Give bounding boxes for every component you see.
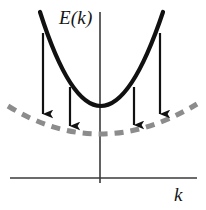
axes-group xyxy=(10,12,197,183)
band-diagram-figure: E(k) k xyxy=(0,0,206,210)
momentum-axis-label: k xyxy=(174,184,182,206)
lower-band-dashed-curve xyxy=(8,104,197,134)
energy-axis-label: E(k) xyxy=(59,7,93,29)
band-diagram-canvas xyxy=(0,0,206,210)
energy-shift-arrows-group xyxy=(43,33,160,126)
